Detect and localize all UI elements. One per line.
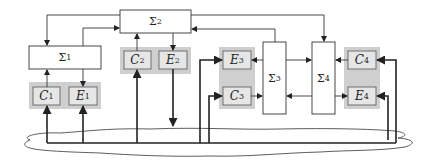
block-sigma2 [120,10,191,33]
block-e3 [223,51,251,69]
block-e1 [69,87,97,105]
edge-sigma1-sigma2 [83,28,119,46]
block-c3 [223,87,251,105]
block-sigma1 [29,46,101,69]
edge-sigma3-sigma2 [192,29,275,42]
block-sigma4 [312,42,335,114]
edge-sigma2-sigma1 [47,15,120,45]
block-c2 [124,51,151,69]
block-e4 [348,87,376,105]
block-c4 [348,51,376,69]
block-sigma3 [263,42,286,114]
block-c1 [33,87,60,105]
edge-sigma2-sigma4 [191,15,324,41]
diagram-canvas [0,0,431,165]
block-e2 [159,51,187,69]
